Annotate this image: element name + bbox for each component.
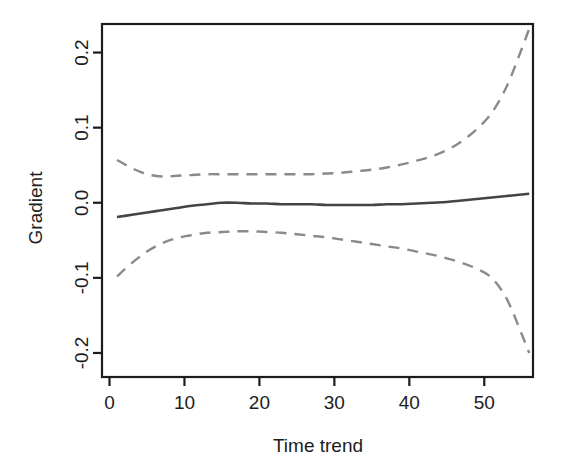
y-tick-label: -0.1 (71, 261, 92, 294)
y-axis-title: Gradient (25, 171, 46, 245)
y-tick-label: -0.2 (71, 337, 92, 370)
x-tick-label: 40 (399, 392, 420, 413)
chart-canvas: 01020304050 -0.2-0.10.00.10.2 Time trend… (0, 0, 572, 470)
x-tick-label: 30 (324, 392, 345, 413)
y-tick-label: 0.0 (71, 190, 92, 216)
y-tick-label: 0.1 (71, 114, 92, 140)
y-tick-label: 0.2 (71, 39, 92, 65)
x-tick-label: 0 (104, 392, 115, 413)
chart-figure: 01020304050 -0.2-0.10.00.10.2 Time trend… (0, 0, 572, 470)
x-axis-title: Time trend (273, 435, 363, 456)
x-tick-label: 20 (249, 392, 270, 413)
x-tick-label: 10 (174, 392, 195, 413)
x-tick-label: 50 (474, 392, 495, 413)
